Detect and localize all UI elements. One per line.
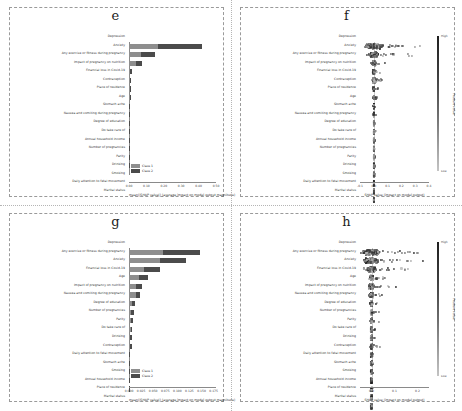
panel-f-swarm-point xyxy=(381,79,383,81)
panel-f-feature-label: Age xyxy=(240,92,358,101)
panel-e-x-ticks: 0.000.100.200.300.400.50 xyxy=(129,184,216,190)
panel-g-bar-segment-class2 xyxy=(139,275,149,280)
panel-h-x-ticks: 0.00.10.2 xyxy=(360,389,429,395)
panel-f-x-tick-label: 0.3 xyxy=(413,184,418,188)
panel-f-swarm-row xyxy=(360,102,429,111)
panel-h-feature-label: Stomach ache xyxy=(240,358,358,367)
panel-e-bars xyxy=(129,42,216,204)
panel-h-feature-label: Depression xyxy=(240,238,358,247)
panel-e-bar-segment-class2 xyxy=(136,61,142,66)
panel-g-bar-segment-class2 xyxy=(160,258,186,263)
panel-h-swarm-row xyxy=(360,368,429,377)
panel-h-swarm-point xyxy=(387,269,389,271)
panel-f-feature-label: Place of residence xyxy=(240,83,358,92)
panel-f-swarm-point xyxy=(375,71,377,73)
panel-h-feature-label: Anxiety xyxy=(240,255,358,264)
panel-g-x-tick-label: 0.150 xyxy=(197,389,206,393)
panel-g-bar-row xyxy=(129,248,216,257)
panel-h-swarm-point xyxy=(396,259,398,261)
panel-e-legend-label: Class 1 xyxy=(142,164,153,168)
panel-g-bar-segment-class2 xyxy=(163,250,200,255)
panel-e-feature-label: Impact of pregnancy on nutrition xyxy=(9,58,127,67)
panel-f-swarm-row xyxy=(360,153,429,162)
panel-f-swarm-point xyxy=(384,61,386,63)
panel-h-swarm-point xyxy=(383,261,385,263)
panel-h-swarm-point xyxy=(387,251,389,253)
panel-h-swarm-point xyxy=(377,253,379,255)
panel-e-bar-segment-class1 xyxy=(129,44,158,49)
panel-g-letter: g xyxy=(0,215,231,228)
panel-h-swarm-point xyxy=(371,382,373,384)
panel-h-feature-label: Degree of education xyxy=(240,298,358,307)
panel-g-feature-labels: DepressionAny exercise or fitness during… xyxy=(9,238,127,400)
panel-g-feature-label: Daily attention to fetal movement xyxy=(9,349,127,358)
panel-g-bar-row xyxy=(129,257,216,266)
panel-g-feature-label: Marital status xyxy=(9,392,127,401)
panel-h-feature-label: Daily attention to fetal movement xyxy=(240,349,358,358)
panel-e-x-tick-label: 0.10 xyxy=(143,184,150,188)
panel-h-colorbar-high-label: High xyxy=(441,240,448,244)
panel-h-swarm-row xyxy=(360,376,429,385)
panel-g-axes: Class 1Class 2 0.0000.0250.0500.0750.100… xyxy=(129,238,216,402)
panel-h-swarm-point xyxy=(371,373,373,375)
panel-e-feature-label: Contraception xyxy=(9,75,127,84)
panel-e-bar-row xyxy=(129,102,216,111)
panel-e-bar-row xyxy=(129,136,216,145)
panel-f-feature-label: Smoking xyxy=(240,169,358,178)
panel-g-bar-segment-class2 xyxy=(130,344,131,349)
panel-f-swarm-row xyxy=(360,119,429,128)
panel-g-x-tick-label: 0.175 xyxy=(209,389,218,393)
panel-f-swarm-point xyxy=(414,46,416,48)
panel-h-swarm-point xyxy=(413,252,415,254)
panel-h-swarm-point xyxy=(379,345,381,347)
panel-f-feature-label: Parity xyxy=(240,152,358,161)
panel-e-bar-segment-class2 xyxy=(130,78,131,83)
panel-f-x-title: SHAP value (impact on model output) xyxy=(360,193,429,197)
panel-h-swarm-point xyxy=(409,251,411,253)
panel-g-feature-label: Impact of pregnancy on nutrition xyxy=(9,281,127,290)
panel-g-feature-label: Age xyxy=(9,272,127,281)
panel-f-swarm-point xyxy=(373,142,375,144)
panel-e-feature-label: Stomach ache xyxy=(9,100,127,109)
panel-g-legend-swatch xyxy=(131,374,140,378)
panel-e-x-tick-label: 0.20 xyxy=(160,184,167,188)
panel-h-swarm-point xyxy=(422,260,424,262)
panel-f-swarm-row xyxy=(360,170,429,179)
panel-g-bar-row xyxy=(129,282,216,291)
panel-f-x-tick-label: 0.4 xyxy=(427,184,432,188)
panel-g-bar-segment-class2 xyxy=(130,335,131,340)
panel-g-legend-swatch xyxy=(131,369,140,373)
panel-g-bar-row xyxy=(129,291,216,300)
panel-h-swarm-point xyxy=(377,311,379,313)
panel-h-swarm-row xyxy=(360,325,429,334)
panel-g-feature-label: Stomach ache xyxy=(9,358,127,367)
panel-f-swarm-row xyxy=(360,68,429,77)
panel-f-swarm-row xyxy=(360,85,429,94)
panel-f-swarm-row xyxy=(360,136,429,145)
panel-e-bar-row xyxy=(129,85,216,94)
panel-e-feature-label: Age xyxy=(9,92,127,101)
panel-h-swarm-point xyxy=(374,328,376,330)
panel-h-swarm-point xyxy=(381,294,383,296)
panel-g-bar-row xyxy=(129,325,216,334)
panel-g-bar-segment-class2 xyxy=(144,267,161,272)
panel-h-swarm-point xyxy=(400,267,402,269)
panel-e-bar-segment-class2 xyxy=(130,69,131,74)
panel-g-feature-label: Smoking xyxy=(9,366,127,375)
panel-e-feature-label: Smoking xyxy=(9,169,127,178)
panel-h-swarm-point xyxy=(393,268,395,270)
panel-f-swarm-point xyxy=(373,116,375,118)
panel-f-swarm-row xyxy=(360,51,429,60)
panel-g-bar-segment-class1 xyxy=(129,284,136,289)
panel-f-feature-label: Anxiety xyxy=(240,41,358,50)
panel-e-feature-label: Place of residence xyxy=(9,83,127,92)
panel-g-feature-label: Contraception xyxy=(9,341,127,350)
panel-h-swarm-point xyxy=(388,286,390,288)
panel-g-legend-label: Class 1 xyxy=(142,369,153,373)
panel-h-swarm-row xyxy=(360,333,429,342)
panel-h-feature-label: Smoking xyxy=(240,366,358,375)
panel-h-feature-label: Any exercise or fitness during pregnancy xyxy=(240,247,358,256)
panel-f-feature-label: Stomach ache xyxy=(240,100,358,109)
panel-e-legend-item: Class 2 xyxy=(131,169,153,173)
panel-h-swarm-row xyxy=(360,359,429,368)
